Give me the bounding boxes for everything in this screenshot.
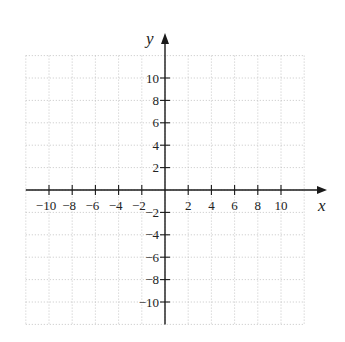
y-tick-label: −6: [145, 250, 159, 265]
x-tick-label: −10: [36, 198, 56, 213]
y-tick-label: −2: [145, 205, 159, 220]
x-tick-label: −2: [132, 198, 146, 213]
coordinate-plane: −10−8−6−4−2246810108642−2−4−6−8−10 x y: [0, 0, 345, 342]
x-tick-label: 4: [208, 198, 215, 213]
x-axis-label: x: [317, 196, 326, 215]
y-tick-label: 6: [153, 115, 160, 130]
x-tick-label: 10: [275, 198, 288, 213]
y-axis-arrow-icon: [161, 33, 169, 44]
x-tick-label: −6: [85, 198, 99, 213]
y-tick-label: 8: [153, 93, 160, 108]
y-tick-label: −4: [145, 227, 159, 242]
x-tick-label: 2: [185, 198, 192, 213]
x-tick-label: 6: [231, 198, 238, 213]
y-tick-label: 2: [153, 160, 160, 175]
y-tick-label: −8: [145, 272, 159, 287]
y-tick-label: 4: [153, 138, 160, 153]
x-tick-label: 8: [255, 198, 262, 213]
x-axis-arrow-icon: [317, 186, 327, 194]
y-axis-label: y: [144, 29, 154, 48]
axes: [26, 33, 327, 324]
x-tick-label: −4: [109, 198, 123, 213]
x-tick-label: −8: [62, 198, 76, 213]
y-tick-label: 10: [146, 71, 159, 86]
y-tick-label: −10: [139, 295, 159, 310]
